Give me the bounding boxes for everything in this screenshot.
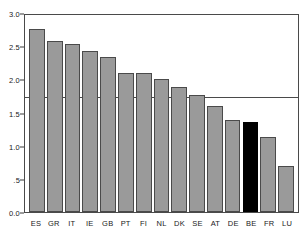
bar [225,120,241,212]
bar-slot [135,15,153,212]
bar-highlighted [243,122,259,212]
x-tick-label: NL [153,219,171,228]
x-tick-label: GB [99,219,117,228]
bar-slot [242,15,260,212]
x-tick-label: IT [63,219,81,228]
plot-frame [24,14,299,213]
bar-slot [206,15,224,212]
x-tick-label: DK [171,219,189,228]
bar [118,73,134,212]
bar-slot [99,15,117,212]
bar-slot [277,15,295,212]
bar-slot [188,15,206,212]
x-tick-label: LU [278,219,296,228]
x-tick-label: GR [45,219,63,228]
bar [171,87,187,212]
y-tick-label: 2.0 [9,76,20,85]
bar-slot [259,15,277,212]
bar [278,166,294,212]
bar [29,29,45,212]
y-tick-label: .5 [13,175,20,184]
x-tick-label: IE [81,219,99,228]
x-tick-label: FR [260,219,278,228]
bar-slot [117,15,135,212]
y-tick-label: 3.0 [9,10,20,19]
bar [136,73,152,212]
y-tick-label: 2.5 [9,43,20,52]
y-tick-label: 1.0 [9,142,20,151]
x-tick-label: FI [135,219,153,228]
bar [154,79,170,212]
bar-slot [153,15,171,212]
y-tick-label: 1.5 [9,109,20,118]
x-tick-label: DE [224,219,242,228]
bar-slot [224,15,242,212]
bar-chart: 0.0.51.01.52.02.53.0 ESGRITIEGBPTFINLDKS… [0,0,303,242]
bars-container [25,15,298,212]
x-tick-label: PT [117,219,135,228]
bar-slot [64,15,82,212]
bar-slot [46,15,64,212]
plot-area [25,15,298,212]
x-tick-label: BE [242,219,260,228]
bar-slot [170,15,188,212]
bar [189,95,205,212]
bar [47,41,63,212]
x-tick-label: ES [27,219,45,228]
bar [260,137,276,212]
x-axis: ESGRITIEGBPTFINLDKSEATDEBEFRLU [24,219,299,228]
bar [207,106,223,212]
bar [82,51,98,212]
bar-slot [28,15,46,212]
x-tick-label: SE [188,219,206,228]
bar [100,57,116,212]
x-tick-label: AT [206,219,224,228]
bar [65,44,81,212]
y-tick-label: 0.0 [9,209,20,218]
y-axis: 0.0.51.01.52.02.53.0 [0,0,20,242]
bar-slot [81,15,99,212]
